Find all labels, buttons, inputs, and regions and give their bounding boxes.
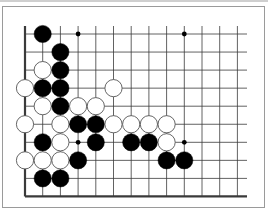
white-stone	[70, 98, 87, 115]
black-stone	[140, 134, 157, 151]
white-stone	[34, 152, 51, 169]
black-stone	[158, 152, 175, 169]
star-point-icon	[76, 32, 81, 37]
white-stone	[52, 116, 69, 133]
black-stone	[176, 152, 193, 169]
black-stone	[34, 80, 51, 97]
black-stone	[87, 116, 104, 133]
white-stone	[16, 152, 33, 169]
white-stone	[52, 152, 69, 169]
black-stone	[52, 98, 69, 115]
black-stone	[34, 25, 51, 42]
white-stone	[158, 134, 175, 151]
white-stone	[140, 116, 157, 133]
go-board	[0, 0, 268, 214]
white-stone	[105, 80, 122, 97]
white-stone	[16, 80, 33, 97]
black-stone	[123, 134, 140, 151]
white-stone	[34, 98, 51, 115]
star-point-icon	[182, 32, 187, 37]
black-stone	[70, 152, 87, 169]
white-stone	[105, 116, 122, 133]
black-stone	[52, 62, 69, 79]
black-stone	[52, 43, 69, 60]
white-stone	[123, 116, 140, 133]
white-stone	[87, 98, 104, 115]
black-stone	[87, 134, 104, 151]
black-stone	[52, 80, 69, 97]
white-stone	[158, 116, 175, 133]
black-stone	[52, 170, 69, 187]
star-point-icon	[76, 140, 81, 145]
white-stone	[34, 62, 51, 79]
white-stone	[52, 134, 69, 151]
black-stone	[70, 116, 87, 133]
white-stone	[16, 116, 33, 133]
black-stone	[34, 134, 51, 151]
black-stone	[34, 170, 51, 187]
star-point-icon	[182, 140, 187, 145]
